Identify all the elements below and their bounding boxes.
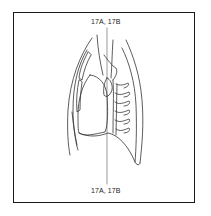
diaphragm (79, 133, 140, 165)
sternum-body (77, 80, 82, 112)
trachea-anterior (97, 35, 103, 75)
heart-outline (78, 75, 108, 135)
section-label-top: 17A, 17B (91, 18, 121, 25)
aortic-arch (104, 55, 117, 80)
lateral-chest-diagram (0, 0, 211, 216)
spine-vertebrae (115, 83, 130, 135)
section-label-bottom: 17A, 17B (91, 187, 121, 194)
posterior-chest-wall-inner (122, 48, 136, 162)
trachea-posterior (111, 40, 113, 78)
